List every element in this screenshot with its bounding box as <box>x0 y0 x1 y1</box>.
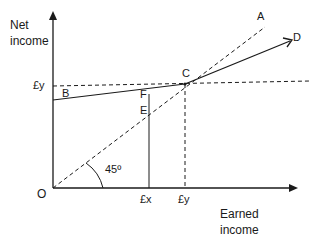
point-C <box>183 82 186 85</box>
x-tick-label-x: £x <box>140 193 152 206</box>
y-axis-label: Net income <box>10 17 49 49</box>
point-label-D: D <box>293 31 301 44</box>
point-label-C: C <box>182 67 190 80</box>
y-tick-label: £y <box>33 79 45 92</box>
x-tick-label-y: £y <box>178 193 190 206</box>
point-label-A: A <box>257 10 264 23</box>
origin-label: O <box>37 188 46 201</box>
point-label-E: E <box>140 104 147 117</box>
line-OA-45-degree <box>53 27 265 188</box>
y-axis-arrow-icon <box>49 11 57 20</box>
horizontal-dashed-y-line <box>53 81 310 86</box>
point-label-F: F <box>140 88 147 101</box>
angle-arc <box>86 163 103 188</box>
point-label-B: B <box>62 87 69 100</box>
x-axis-label: Earned income <box>220 206 259 237</box>
line-BC <box>53 84 185 100</box>
angle-label: 45º <box>105 163 121 176</box>
x-axis-arrow-icon <box>289 184 298 192</box>
